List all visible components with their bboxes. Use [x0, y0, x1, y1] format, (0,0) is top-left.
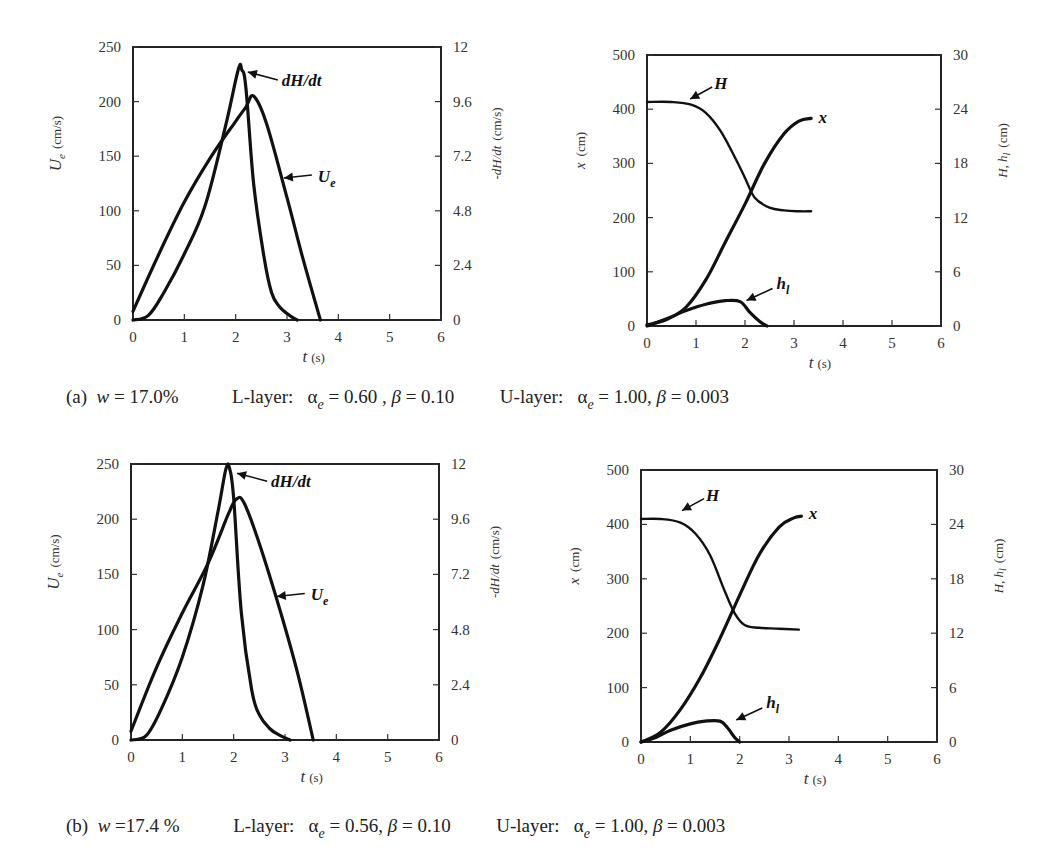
x-tick-label: 2 [741, 335, 749, 351]
y-tick-label: 100 [613, 264, 636, 280]
y2-axis-label: H, hl(cm) [995, 123, 1012, 179]
x-tick-label: 3 [281, 749, 289, 765]
y2-tick-label: 18 [949, 571, 964, 587]
l-alpha-subscript: e [319, 826, 325, 841]
l-beta-value: = 0.10 [402, 815, 451, 836]
y2-tick-label: 0 [451, 732, 459, 748]
y2-tick-label: 9.6 [453, 94, 472, 110]
y-tick-label: 500 [613, 47, 636, 63]
y-tick-label: 500 [607, 462, 630, 478]
u-beta-value: = 0.003 [671, 386, 729, 407]
water-content-symbol: w [97, 386, 110, 407]
y2-axis-label: H, hl(cm) [991, 539, 1008, 595]
u-alpha-symbol: α [577, 386, 587, 407]
x-tick-label: 0 [127, 749, 135, 765]
y-tick-label: 100 [97, 622, 120, 638]
y2-axis-label: -dH/dt(cm/s) [487, 526, 502, 598]
series-h-line [641, 519, 799, 630]
l-layer-label: L-layer: [232, 386, 293, 407]
y2-tick-label: 6 [949, 680, 957, 696]
y-tick-label: 100 [607, 680, 630, 696]
l-alpha-value: = 0.56, [330, 815, 383, 836]
u-alpha-value: = 1.00, [595, 815, 648, 836]
x-tick-label: 4 [335, 329, 343, 345]
y2-tick-label: 0 [949, 734, 957, 750]
x-tick-label: 4 [839, 335, 847, 351]
u-beta-symbol: β [657, 386, 666, 407]
l-beta-value: = 0.10 [406, 386, 455, 407]
l-beta-symbol: β [391, 386, 400, 407]
series-hl-line [647, 300, 767, 326]
x-tick-label: 6 [937, 335, 945, 351]
water-content-value: =17.4 % [115, 815, 180, 836]
y-tick-label: 100 [99, 203, 122, 219]
u-alpha-subscript: e [584, 826, 590, 841]
y2-tick-label: 12 [949, 625, 964, 641]
y-tick-label: 400 [607, 516, 630, 532]
y-tick-label: 200 [607, 625, 630, 641]
y-tick-label: 0 [628, 318, 636, 334]
plot-frame [131, 464, 439, 740]
l-beta-symbol: β [388, 815, 397, 836]
l-alpha-symbol: α [308, 386, 318, 407]
x-tick-label: 5 [386, 329, 394, 345]
series-dhdt-line [131, 464, 290, 740]
y2-tick-label: 24 [949, 516, 965, 532]
y-axis-label: x(cm) [566, 547, 582, 585]
arrowhead-icon [284, 173, 293, 182]
y-tick-label: 300 [607, 571, 630, 587]
caption-b: (b) w =17.4 % L-layer: αe = 0.56, β = 0.… [66, 815, 725, 837]
x-tick-label: 1 [692, 335, 700, 351]
x-axis-label: t(s) [302, 347, 324, 366]
l-alpha-subscript: e [317, 397, 323, 412]
chart-a-position-depth: 0123456t(s)01002003004005000612182430x(c… [572, 47, 1012, 372]
l-alpha-symbol: α [309, 815, 319, 836]
y-tick-label: 250 [99, 39, 122, 55]
x-tick-label: 0 [637, 751, 645, 767]
label-ue: Ue [311, 585, 329, 608]
l-alpha-value: = 0.60 , [328, 386, 386, 407]
y-tick-label: 300 [613, 155, 636, 171]
u-alpha-subscript: e [587, 397, 593, 412]
chart-b-velocity: 0123456t(s)05010015020025002.44.87.29.61… [44, 456, 502, 786]
x-tick-label: 6 [437, 329, 445, 345]
label-ue: Ue [318, 167, 336, 190]
y2-tick-label: 7.2 [453, 148, 472, 164]
water-content-value: = 17.0% [114, 386, 179, 407]
series-ue-line [133, 96, 320, 320]
x-tick-label: 3 [785, 751, 793, 767]
x-tick-label: 5 [888, 335, 896, 351]
y-tick-label: 50 [104, 677, 119, 693]
u-layer-label: U-layer: [500, 386, 563, 407]
x-tick-label: 0 [643, 335, 651, 351]
y2-tick-label: 30 [949, 462, 964, 478]
y2-tick-label: 12 [451, 456, 466, 472]
caption-tag: (a) [66, 386, 87, 407]
label-h: H [713, 74, 728, 93]
plot-frame [647, 55, 941, 326]
label-hl: hl [777, 274, 790, 297]
y-tick-label: 50 [106, 257, 121, 273]
u-beta-symbol: β [653, 815, 662, 836]
y2-tick-label: 4.8 [451, 622, 470, 638]
y2-tick-label: 0 [953, 318, 961, 334]
series-ue-line [131, 497, 313, 740]
y2-tick-label: 12 [453, 39, 468, 55]
caption-tag: (b) [66, 815, 88, 836]
label-dhdt: dH/dt [282, 71, 323, 90]
x-axis-label: t(s) [809, 353, 831, 372]
caption-a: (a) w = 17.0% L-layer: αe = 0.60 , β = 0… [66, 386, 729, 408]
y-tick-label: 150 [99, 148, 122, 164]
x-tick-label: 1 [687, 751, 695, 767]
y2-tick-label: 4.8 [453, 203, 472, 219]
x-tick-label: 2 [736, 751, 744, 767]
x-tick-label: 2 [230, 749, 238, 765]
y2-tick-label: 9.6 [451, 511, 470, 527]
x-tick-label: 6 [435, 749, 443, 765]
chart-a-velocity: 0123456t(s)05010015020025002.44.87.29.61… [46, 39, 504, 366]
x-tick-label: 4 [333, 749, 341, 765]
y2-axis-label: -dH/dt(cm/s) [489, 107, 504, 179]
x-tick-label: 2 [232, 329, 240, 345]
x-tick-label: 3 [283, 329, 291, 345]
y-axis-label: Ue(cm/s) [46, 116, 67, 171]
